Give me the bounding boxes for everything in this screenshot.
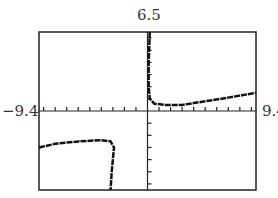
plot-area: [0, 0, 278, 198]
axes: [39, 32, 256, 190]
curve-right-branch: [149, 32, 256, 105]
curve-left-branch: [39, 140, 114, 190]
